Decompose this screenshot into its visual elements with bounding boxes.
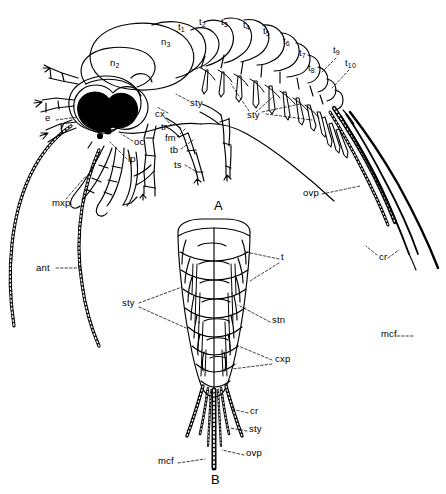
label-t3: t3 <box>221 17 228 27</box>
label-fm: fm <box>165 133 176 143</box>
label-t9: t9 <box>333 45 340 55</box>
maxillary-palp <box>71 146 112 208</box>
notum-n2 <box>90 23 194 90</box>
label-lp: lp <box>128 154 136 164</box>
label-sty-b2: sty <box>249 424 262 434</box>
label-t7: t7 <box>299 48 306 58</box>
label-cr-a: cr <box>379 252 387 262</box>
label-t6: t6 <box>283 36 290 46</box>
label-n2: n2 <box>110 58 120 68</box>
label-ant: ant <box>36 263 50 273</box>
label-ovp-b: ovp <box>246 448 262 458</box>
anatomical-line-art <box>0 0 446 494</box>
label-ovp-a: ovp <box>303 188 319 198</box>
label-t8: t8 <box>308 63 315 73</box>
label-ts: ts <box>174 160 182 170</box>
abdominal-styli <box>202 70 327 137</box>
label-n3: n3 <box>161 37 171 47</box>
label-tr: tr <box>161 122 167 132</box>
label-t5: t5 <box>263 26 270 36</box>
label-t-b: t <box>281 252 284 262</box>
median-caudal-filament <box>350 112 438 268</box>
panel-letter-b: B <box>211 472 220 487</box>
label-mxp: mxp <box>52 198 71 208</box>
label-t2: t2 <box>199 17 206 27</box>
label-t10: t10 <box>345 58 356 68</box>
label-mcf-a: mcf <box>381 329 397 339</box>
label-stn-b: stn <box>272 315 285 325</box>
label-mcf-b: mcf <box>158 456 174 466</box>
compound-eye <box>74 85 148 133</box>
leg-3 <box>200 104 231 181</box>
label-sty-a2: sty <box>247 110 260 120</box>
antenna-left <box>10 126 71 326</box>
left-appendages <box>34 65 78 142</box>
label-t1: t1 <box>178 22 185 32</box>
label-e: e <box>45 113 50 123</box>
label-t4: t4 <box>243 20 250 30</box>
label-sty-b1: sty <box>122 298 135 308</box>
panel-b-terminal <box>187 386 242 468</box>
ovipositor <box>330 108 395 225</box>
label-n1: n1 <box>111 96 121 106</box>
tergite-t4 <box>257 25 284 65</box>
label-sty-a1: sty <box>190 98 203 108</box>
label-tb: tb <box>170 145 178 155</box>
label-cr-b: cr <box>250 406 258 416</box>
label-cx: cx <box>155 109 165 119</box>
ocellus <box>105 128 111 134</box>
figure-plate: e n1 n2 n3 oc lp mxp ant cx tr fm tb ts … <box>0 0 446 494</box>
panel-letter-a: A <box>214 198 223 213</box>
label-cxp-b: cxp <box>275 354 290 364</box>
label-oc: oc <box>134 137 144 147</box>
panel-b-body <box>178 219 250 468</box>
